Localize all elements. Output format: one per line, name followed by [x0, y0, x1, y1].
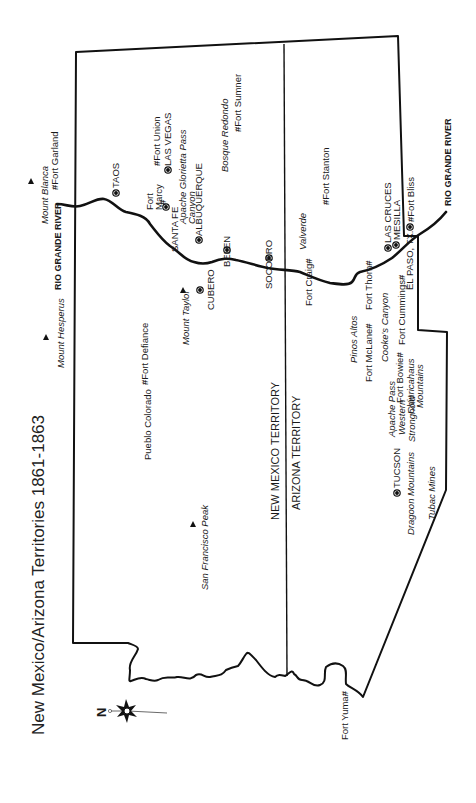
fort-marcy: FortMarcy — [145, 184, 163, 210]
place-label-valverde: Valverde — [298, 213, 308, 250]
mountain-label-blanca: Mount Blanca — [40, 166, 50, 224]
fort-icon: # — [394, 352, 405, 357]
fort-icon: # — [157, 200, 168, 205]
town-icon — [385, 245, 391, 251]
place-label-bosque-redondo: Bosque Redondo — [220, 99, 230, 172]
place-label-pueblo-colorado: Pueblo Colorado — [143, 389, 153, 460]
fort-icon: # — [320, 200, 331, 205]
fort-cummings: Fort Cummings# — [397, 275, 407, 345]
territory-boundary — [73, 36, 447, 697]
town-label-belen: BELEN — [222, 236, 232, 267]
mountain-label-san-francisco-peak: San Francisco Peak — [200, 505, 210, 590]
fort-icon: # — [139, 380, 150, 385]
place-label-tubac-mines: Tubac Mines — [427, 466, 437, 520]
fort-union: #Fort Union — [152, 116, 162, 166]
mountain-icon — [28, 178, 34, 184]
town-label-tucson: TUCSON — [392, 448, 402, 488]
fort-mclane: Fort McLane# — [364, 323, 374, 382]
new-mexico-territory-label: NEW MEXICO TERRITORY — [270, 382, 281, 520]
place-label-canyon: Canyon — [187, 191, 197, 224]
fort-yuma: Fort Yuma# — [340, 691, 350, 740]
fort-icon: # — [363, 261, 374, 266]
town-label-las-vegas: LAS VEGAS — [163, 113, 173, 166]
fort-icon: # — [405, 217, 416, 222]
town-icon — [407, 224, 413, 230]
mountain-icon — [43, 334, 49, 340]
fort-icon: # — [49, 185, 60, 190]
mountain-label-hesperus: Mount Hesperus — [56, 298, 66, 368]
mountain-label-taylor: Mount Taylor — [181, 290, 191, 345]
fort-sumner: #Fort Sumner — [233, 74, 243, 132]
fort-icon: # — [303, 258, 314, 263]
fort-bliss: #Fort Bliss — [406, 177, 416, 222]
place-label-mountains: Mountains — [415, 364, 425, 408]
fort-stanton: #Fort Stanton — [321, 147, 331, 205]
town-icon — [165, 167, 171, 173]
town-icon — [197, 287, 203, 293]
town-label-socorro: SOCORRO — [264, 240, 274, 289]
rio-grande-river-label-south: RIO GRANDE RIVER — [444, 118, 453, 206]
town-label-taos: TAOS — [111, 163, 121, 188]
fort-icon: # — [232, 127, 243, 132]
town-icon — [196, 237, 202, 243]
mountain-icon — [190, 521, 196, 527]
compass-rose — [108, 699, 167, 723]
fort-icon: # — [339, 691, 350, 696]
town-label-mesilla: MESILLA — [392, 200, 402, 240]
fort-defiance: #Fort Defiance — [140, 323, 150, 385]
fort-icon: # — [363, 323, 374, 328]
town-label-cubero: CUBERO — [206, 269, 216, 310]
compass-north-label: N — [95, 708, 108, 717]
town-icon — [394, 490, 400, 496]
fort-icon: # — [151, 161, 162, 166]
place-label-dragoon-mountains: Dragoon Mountains — [406, 452, 416, 535]
territory-divider — [284, 44, 287, 676]
town-icon — [393, 242, 399, 248]
arizona-territory-label: ARIZONA TERRITORY — [291, 396, 302, 510]
fort-marcy-symbol: # — [158, 200, 168, 205]
fort-thorn: Fort Thorn# — [364, 261, 374, 310]
map-title: New Mexico/Arizona Territories 1861-1863 — [30, 415, 47, 735]
fort-icon: # — [396, 275, 407, 280]
place-label-pinos-altos: Pinos Altos — [349, 316, 359, 363]
place-label-cookes-canyon: Cooke's Canyon — [380, 293, 390, 362]
fort-craig: Fort Craig# — [304, 258, 314, 306]
fort-garland: #Fort Garland — [50, 131, 60, 190]
rio-grande-river-label-north: RIO GRANDE RIVER — [54, 202, 63, 290]
town-icon — [113, 190, 119, 196]
